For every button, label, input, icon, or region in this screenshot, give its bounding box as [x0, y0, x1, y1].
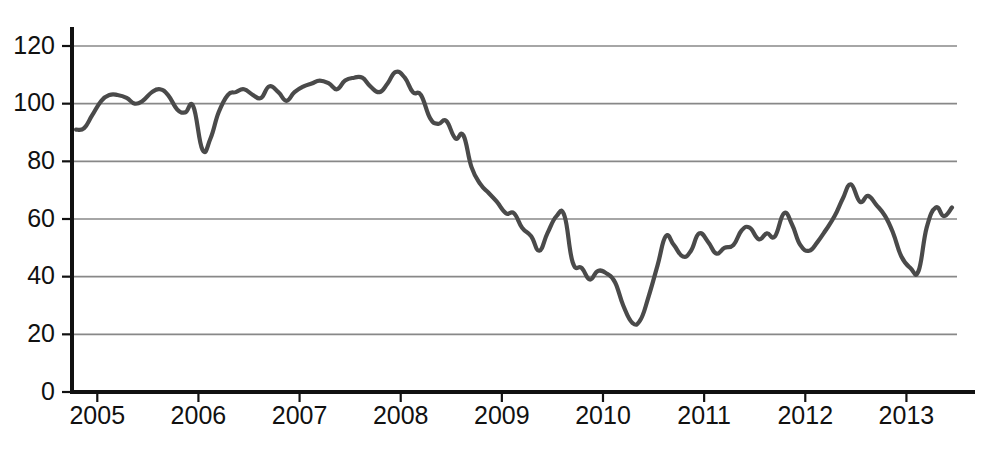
x-tick-label: 2007: [272, 401, 328, 429]
y-tick-label: 0: [41, 377, 55, 405]
chart-container: 020406080100120 200520062007200820092010…: [0, 0, 993, 452]
x-tick-label: 2011: [677, 401, 731, 429]
chart-background: [0, 0, 993, 452]
y-tick-label: 100: [13, 88, 55, 116]
x-axis-labels: 200520062007200820092010201120122013: [69, 401, 934, 429]
y-tick-label: 80: [27, 146, 55, 174]
y-tick-label: 120: [13, 31, 55, 59]
line-chart: 020406080100120 200520062007200820092010…: [0, 0, 993, 452]
x-tick-label: 2010: [575, 401, 631, 429]
x-tick-label: 2005: [69, 401, 125, 429]
y-tick-label: 20: [27, 319, 55, 347]
y-tick-label: 40: [27, 261, 55, 289]
y-tick-label: 60: [27, 204, 55, 232]
x-tick-label: 2008: [373, 401, 429, 429]
x-tick-label: 2009: [474, 401, 530, 429]
x-tick-label: 2006: [171, 401, 227, 429]
x-tick-label: 2013: [879, 401, 935, 429]
x-tick-label: 2012: [777, 401, 833, 429]
